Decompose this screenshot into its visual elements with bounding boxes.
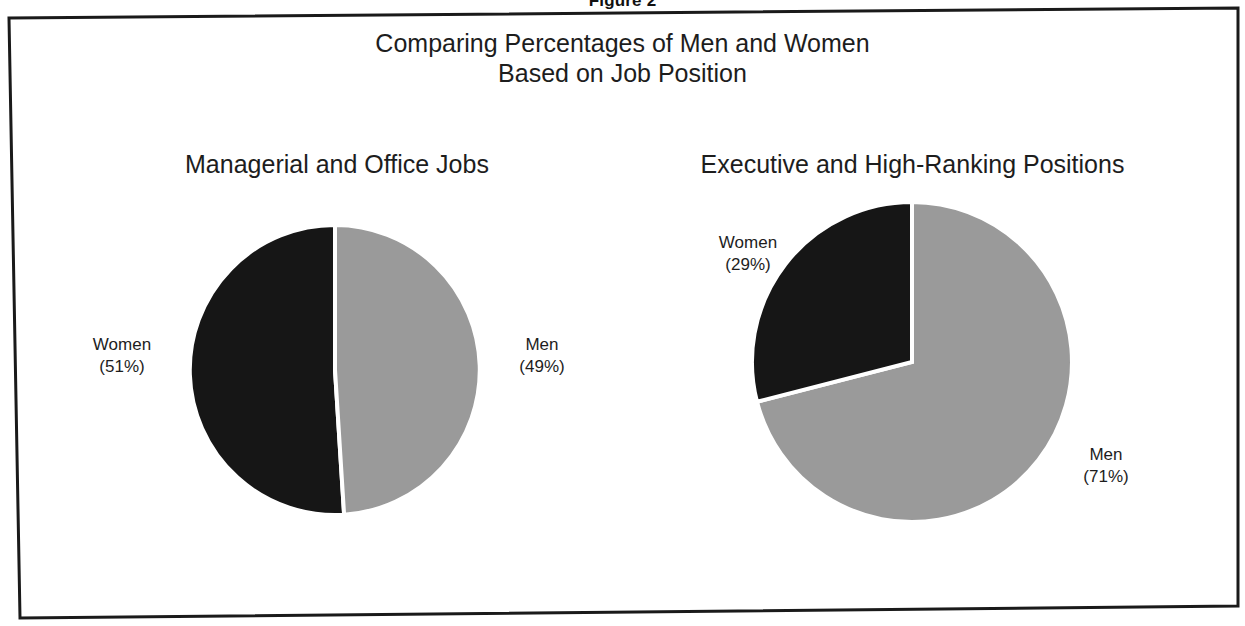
- pie-label-managerial-men: Men (49%): [492, 334, 592, 378]
- pie-label-executive-men-name: Men: [1089, 445, 1122, 464]
- pie-label-executive-women-name: Women: [719, 233, 777, 252]
- pie-label-managerial-men-name: Men: [525, 335, 558, 354]
- pie-label-managerial-women-percent: (51%): [62, 356, 182, 378]
- figure-container: Figure 2 Comparing Percentages of Men an…: [0, 0, 1245, 626]
- pie-label-executive-men: Men (71%): [1056, 444, 1156, 488]
- pie-chart-executive: [0, 0, 1245, 626]
- pie-label-managerial-women: Women (51%): [62, 334, 182, 378]
- pie-label-executive-men-percent: (71%): [1056, 466, 1156, 488]
- pie-label-executive-women: Women (29%): [688, 232, 808, 276]
- pie-label-executive-women-percent: (29%): [688, 254, 808, 276]
- pie-label-managerial-women-name: Women: [93, 335, 151, 354]
- pie-label-managerial-men-percent: (49%): [492, 356, 592, 378]
